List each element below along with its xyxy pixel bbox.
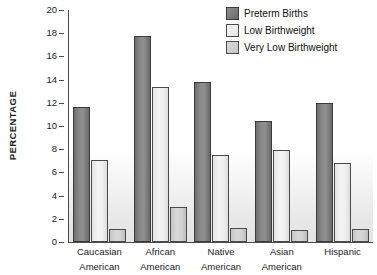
x-axis-label-line2: American (130, 259, 191, 274)
y-axis-tick-mark (59, 172, 64, 173)
bar (352, 229, 369, 242)
y-axis-tick-0: 0 (36, 236, 64, 248)
x-axis-label: Hispanic (312, 244, 373, 259)
x-axis-label-line1: African (145, 246, 175, 257)
legend-label: Low Birthweight (244, 25, 315, 36)
y-axis-tick-16: 16 (36, 50, 64, 62)
y-axis-tick-mark (59, 56, 64, 57)
y-axis-tick-mark (59, 219, 64, 220)
bar (73, 107, 90, 242)
x-axis-baseline (68, 242, 373, 243)
y-axis-tick-12: 12 (36, 97, 64, 109)
chart-legend: Preterm BirthsLow BirthweightVery Low Bi… (226, 6, 337, 54)
legend-swatch-low (226, 24, 239, 37)
bar-group (69, 10, 130, 242)
y-axis-tick-mark (59, 196, 64, 197)
x-axis-label-line1: Hispanic (324, 246, 360, 257)
y-axis-tick-20: 20 (36, 4, 64, 16)
x-axis-label: NativeAmerican (191, 244, 252, 274)
bar (255, 121, 272, 242)
y-axis-tick-mark (59, 242, 64, 243)
legend-item[interactable]: Very Low Birthweight (226, 40, 337, 54)
y-axis-title: PERCENTAGE (7, 81, 18, 171)
bar (230, 228, 247, 242)
y-axis-tick-mark (59, 103, 64, 104)
x-axis-labels: CaucasianAmericanAfricanAmericanNativeAm… (69, 244, 373, 275)
legend-swatch-preterm (226, 7, 239, 20)
bar (109, 229, 126, 242)
x-axis-label-line1: Native (208, 246, 235, 257)
y-axis-tick-mark (59, 80, 64, 81)
bar-group (130, 10, 191, 242)
x-axis-label-line2: American (69, 259, 130, 274)
legend-label: Very Low Birthweight (244, 42, 337, 53)
y-axis-tick-mark (59, 149, 64, 150)
y-axis-tick-mark (59, 33, 64, 34)
bar (91, 160, 108, 242)
x-axis-label: AfricanAmerican (130, 244, 191, 274)
x-axis-label-line2: American (191, 259, 252, 274)
x-axis-label: AsianAmerican (251, 244, 312, 274)
bar (170, 207, 187, 242)
legend-item[interactable]: Low Birthweight (226, 23, 337, 37)
y-axis-tick-14: 14 (36, 74, 64, 86)
bar (273, 150, 290, 242)
legend-item[interactable]: Preterm Births (226, 6, 337, 20)
x-axis-label-line1: Caucasian (77, 246, 122, 257)
y-axis-tick-10: 10 (36, 120, 64, 132)
y-axis: 20181614121086420 (36, 4, 64, 248)
bar (316, 103, 333, 242)
x-axis-label: CaucasianAmerican (69, 244, 130, 274)
bar (291, 230, 308, 242)
bar (194, 82, 211, 242)
y-axis-tick-18: 18 (36, 27, 64, 39)
y-axis-tick-6: 6 (36, 166, 64, 178)
legend-swatch-very-low (226, 41, 239, 54)
bar (212, 155, 229, 242)
y-axis-tick-8: 8 (36, 143, 64, 155)
y-axis-tick-mark (59, 10, 64, 11)
bar-chart: PERCENTAGE 20181614121086420 CaucasianAm… (0, 0, 377, 275)
y-axis-tick-mark (59, 126, 64, 127)
bar (134, 36, 151, 242)
y-axis-tick-2: 2 (36, 213, 64, 225)
legend-label: Preterm Births (244, 8, 308, 19)
bar (334, 163, 351, 242)
x-axis-label-line2: American (251, 259, 312, 274)
y-axis-tick-4: 4 (36, 190, 64, 202)
bar (152, 87, 169, 242)
x-axis-label-line1: Asian (270, 246, 294, 257)
